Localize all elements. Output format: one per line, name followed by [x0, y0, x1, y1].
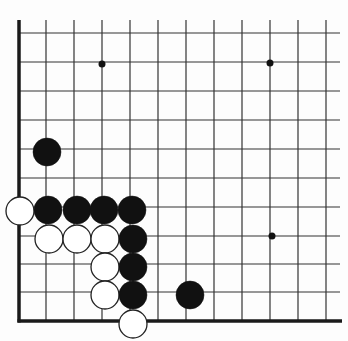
star-point: [269, 233, 276, 240]
black-stone: [63, 196, 91, 224]
white-stone: [63, 225, 91, 253]
black-stone: [119, 281, 147, 309]
star-point: [267, 60, 274, 67]
board-edges: [18, 20, 343, 323]
black-stone: [90, 196, 118, 224]
white-stone: [91, 225, 119, 253]
black-stone: [119, 225, 147, 253]
stones: [6, 138, 204, 338]
black-stone: [33, 138, 61, 166]
white-stone: [91, 281, 119, 309]
go-board: [0, 0, 348, 341]
black-stone: [176, 281, 204, 309]
black-stone: [34, 196, 62, 224]
grid-lines: [19, 20, 340, 321]
white-stone: [119, 310, 147, 338]
white-stone: [6, 197, 34, 225]
star-point: [99, 61, 106, 68]
black-stone: [118, 196, 146, 224]
white-stone: [35, 225, 63, 253]
black-stone: [119, 253, 147, 281]
white-stone: [91, 253, 119, 281]
